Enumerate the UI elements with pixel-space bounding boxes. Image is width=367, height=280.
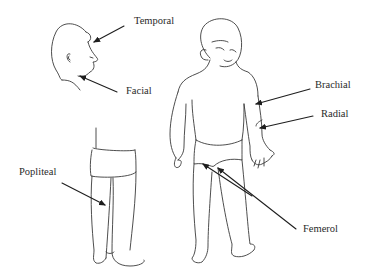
label-radial: Radial <box>321 109 348 120</box>
label-brachial: Brachial <box>315 80 351 91</box>
facial-arrow <box>80 76 117 92</box>
popliteal-arrow <box>62 183 105 205</box>
brachial-arrow <box>256 89 310 104</box>
radial-arrow <box>260 116 313 128</box>
pulse-sites-diagram: Temporal Facial Brachial Radial Poplitea… <box>0 0 367 280</box>
temporal-arrow <box>94 26 124 42</box>
front-child-figure <box>170 19 274 263</box>
pointer-arrows <box>62 26 313 229</box>
label-popliteal: Popliteal <box>19 167 56 178</box>
label-femerol: Femerol <box>303 224 338 235</box>
rear-legs-figure <box>90 128 144 266</box>
femerol-arrow-1 <box>218 168 296 229</box>
illustration <box>0 0 367 280</box>
label-facial: Facial <box>126 86 152 97</box>
label-temporal: Temporal <box>134 16 174 27</box>
